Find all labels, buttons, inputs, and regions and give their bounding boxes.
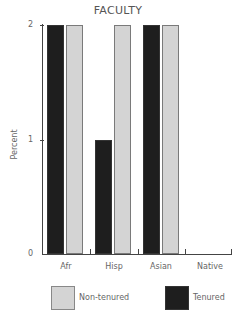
x-tick: [185, 249, 186, 254]
bar-asian-tenured: [143, 25, 160, 254]
bar-hisp-non-tenured: [114, 25, 131, 254]
x-label-asian: Asian: [137, 262, 185, 271]
legend-label-tenured: Tenured: [193, 293, 225, 302]
bar-afr-tenured: [47, 25, 64, 254]
x-tick: [90, 249, 91, 254]
x-label-native: Native: [186, 262, 234, 271]
bar-afr-non-tenured: [66, 25, 83, 254]
legend-swatch-non-tenured: [51, 286, 75, 310]
y-tick-label-2: 2: [28, 20, 33, 29]
legend-swatch-tenured: [165, 286, 189, 310]
legend-label-non-tenured: Non-tenured: [79, 293, 129, 302]
x-tick: [138, 249, 139, 254]
y-tick-label-0: 0: [28, 249, 33, 258]
bar-asian-non-tenured: [162, 25, 179, 254]
x-label-afr: Afr: [42, 262, 90, 271]
bar-hisp-tenured: [95, 140, 112, 255]
chart-title: FACULTY: [0, 4, 236, 17]
x-label-hisp: Hisp: [90, 262, 138, 271]
y-axis-label: Percent: [10, 125, 19, 165]
x-tick: [231, 249, 232, 254]
y-tick-label-1: 1: [28, 135, 33, 144]
y-axis: [42, 24, 43, 254]
x-axis: [42, 254, 232, 255]
